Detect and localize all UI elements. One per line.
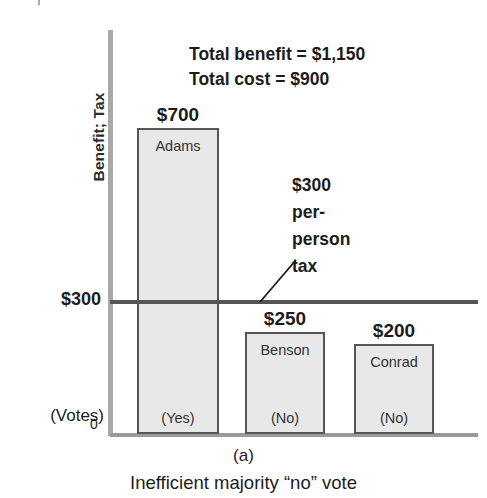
totals-note: Total benefit = $1,150 Total cost = $900: [189, 42, 365, 92]
y-tick-300-label: $300: [61, 289, 101, 310]
bar-vote-conrad: (No): [356, 410, 432, 426]
y-tick-300: $300: [0, 289, 101, 313]
total-cost-text: Total cost = $900: [189, 67, 365, 92]
tax-annotation: $300 per- person tax: [292, 172, 350, 280]
bar-label-benson: Benson: [247, 342, 323, 358]
total-benefit-text: Total benefit = $1,150: [189, 42, 365, 67]
bar-benson[interactable]: Benson (No): [245, 332, 325, 434]
panel-letter: (a): [0, 446, 487, 466]
bar-value-benson: $250: [230, 308, 340, 330]
figure-panel-a: Benefit; Tax $300 (Votes) 0 Total benefi…: [0, 0, 487, 498]
bar-value-adams: $700: [123, 104, 233, 126]
bar-vote-adams: (Yes): [139, 410, 217, 426]
y-axis-line: [108, 30, 113, 436]
scan-artifact: [38, 0, 40, 5]
y-axis-title: Benefit; Tax: [90, 37, 108, 237]
votes-axis-label: (Votes): [0, 406, 104, 426]
bar-label-adams: Adams: [139, 138, 217, 154]
tax-annotation-line-2: per-: [292, 199, 350, 226]
tax-annotation-line-1: $300: [292, 172, 350, 199]
tax-annotation-line-4: tax: [292, 253, 350, 280]
tax-annotation-line-3: person: [292, 226, 350, 253]
y-axis-origin-label: 0: [90, 416, 98, 432]
bar-conrad[interactable]: Conrad (No): [354, 344, 434, 434]
figure-caption: Inefficient majority “no” vote: [0, 472, 487, 494]
bar-vote-benson: (No): [247, 410, 323, 426]
bar-adams[interactable]: Adams (Yes): [137, 128, 219, 434]
bar-label-conrad: Conrad: [356, 354, 432, 370]
tax-reference-line: [110, 300, 478, 304]
bar-value-conrad: $200: [339, 320, 449, 342]
